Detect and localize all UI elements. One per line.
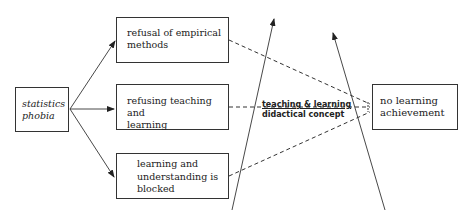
intervention-label: teaching & learning didactical concept xyxy=(262,100,351,120)
node-no-learning-achievement: no learning achievement xyxy=(372,84,458,130)
node-text: learning xyxy=(127,119,228,131)
arrow-to-blocked xyxy=(70,109,114,177)
node-text: blocked xyxy=(137,183,228,196)
node-statistics-phobia: statistics phobia xyxy=(15,87,69,132)
node-learning-blocked: learning and understanding is blocked xyxy=(116,153,229,199)
node-text: no learning xyxy=(380,95,457,107)
label-line: didactical concept xyxy=(262,110,351,120)
node-text: achievement xyxy=(380,107,457,119)
node-text: understanding is xyxy=(137,171,228,184)
node-text: methods xyxy=(127,39,228,51)
node-text: refusing teaching and xyxy=(127,95,228,119)
dashed-refusal-outcome xyxy=(229,40,370,104)
dashed-blocked-outcome xyxy=(229,112,370,176)
node-text: statistics xyxy=(22,98,68,110)
node-text: learning and xyxy=(137,158,228,171)
label-line: teaching & learning xyxy=(262,100,351,110)
node-refusing-teaching: refusing teaching and learning xyxy=(116,84,229,130)
node-refusal-methods: refusal of empirical methods xyxy=(116,17,229,63)
arrow-to-refusal xyxy=(70,41,115,109)
node-text: refusal of empirical xyxy=(127,27,228,39)
node-text: phobia xyxy=(22,110,68,122)
